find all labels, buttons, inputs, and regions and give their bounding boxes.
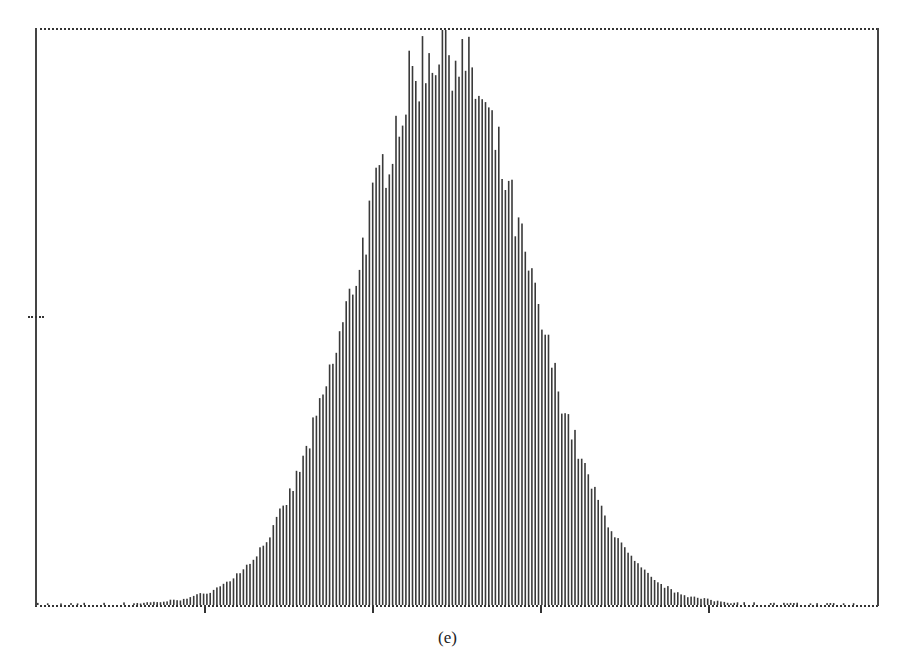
- y-tick: [28, 316, 44, 318]
- x-tick: [540, 605, 542, 613]
- x-tick: [372, 605, 374, 613]
- x-tick: [708, 605, 710, 613]
- figure-caption: (e): [438, 628, 457, 648]
- histogram-bars: [0, 0, 899, 672]
- x-tick: [204, 605, 206, 613]
